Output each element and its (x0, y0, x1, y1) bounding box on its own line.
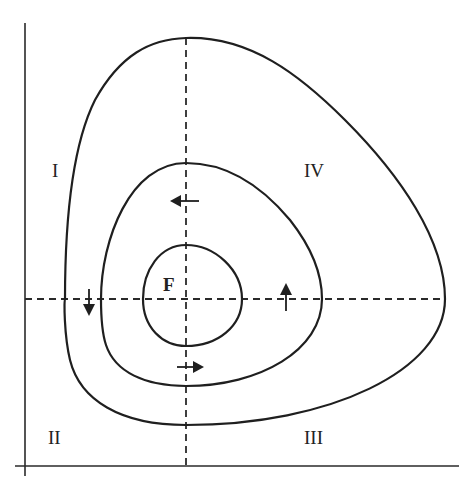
quadrant-label-top-right: IV (304, 160, 324, 181)
arrow-left-icon (170, 195, 199, 207)
arrow-right-icon (177, 361, 204, 373)
quadrant-label-bottom-left: II (48, 427, 61, 448)
middle-orbit (101, 163, 322, 386)
arrow-up-icon (280, 283, 292, 311)
arrow-down-icon (83, 289, 95, 316)
quadrant-label-bottom-right: III (304, 427, 323, 448)
center-label: F (163, 274, 175, 295)
phase-diagram: I IV II III F (0, 0, 474, 493)
inner-orbit (143, 245, 242, 346)
quadrant-label-top-left: I (52, 160, 58, 181)
